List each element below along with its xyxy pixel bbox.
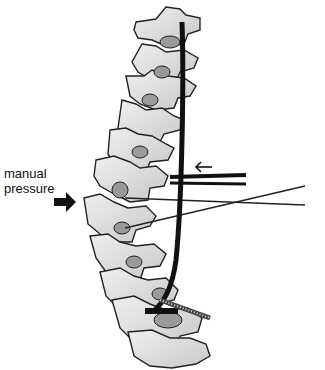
spine-illustration: manual pressure (0, 0, 325, 370)
pressure-label: pressure (4, 181, 55, 196)
wires (125, 186, 305, 228)
manual-pressure-arrow (54, 192, 76, 212)
rod-push-arrow (196, 162, 212, 172)
manual-label: manual (4, 166, 47, 181)
